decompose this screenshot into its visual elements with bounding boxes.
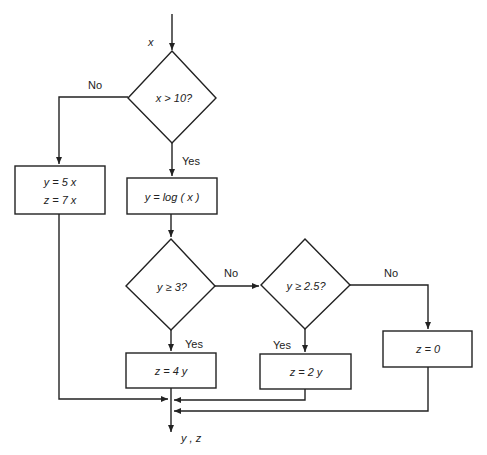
flowchart-canvas [0, 0, 487, 455]
box-z7x-text: z = 7 x [44, 195, 77, 206]
decision-y-ge-3-text: y ≥ 3? [157, 282, 187, 293]
edge-label-d3-no: No [384, 268, 398, 279]
box-z2y-text: z = 2 y [290, 367, 323, 378]
edge-label-d1-yes: Yes [182, 156, 200, 167]
edge-d1-no [59, 97, 128, 164]
output-label: y , z [181, 433, 201, 444]
box-z0-text: z = 0 [416, 344, 440, 355]
box-y5x-z7x-shape [15, 166, 105, 214]
edge-left-merge [59, 214, 168, 399]
box-log-text: y = log ( x ) [145, 192, 200, 203]
box-z4y-text: z = 4 y [155, 366, 188, 377]
edge-label-d2-yes: Yes [185, 339, 203, 350]
edge-d3-no [350, 285, 428, 329]
decision-y-ge-2-5-text: y ≥ 2.5? [286, 281, 325, 292]
input-label: x [148, 37, 154, 48]
edge-z2y-merge [174, 389, 305, 400]
edge-label-d3-yes: Yes [273, 340, 291, 351]
edge-label-d2-no: No [224, 268, 238, 279]
edge-label-d1-no: No [88, 80, 102, 91]
box-y5x-text: y = 5 x [44, 177, 77, 188]
decision-x-gt-10-text: x > 10? [156, 93, 192, 104]
